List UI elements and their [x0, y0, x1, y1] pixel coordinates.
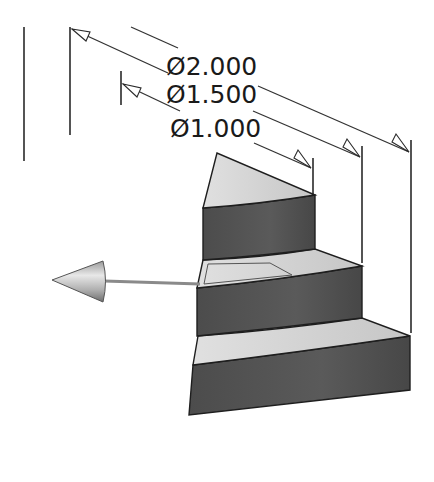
- direction-arrow-shaft[interactable]: [104, 281, 200, 284]
- dimension-labels: Ø2.000 Ø1.500 Ø1.000: [166, 52, 261, 143]
- cad-diagram: Ø2.000 Ø1.500 Ø1.000: [0, 0, 434, 482]
- dimension-label-dia15: Ø1.500: [166, 80, 257, 109]
- arrowhead-dia2-right: [392, 134, 409, 152]
- cone-arrow-icon[interactable]: [52, 261, 106, 302]
- dim-line-dia2-right: [258, 86, 409, 152]
- dimension-label-dia2: Ø2.000: [166, 52, 257, 81]
- extension-lines-left: [24, 27, 121, 161]
- dim-line-dia1-top: [131, 27, 178, 48]
- arrowhead-dia2-left: [72, 29, 90, 41]
- dimension-label-dia1: Ø1.000: [170, 114, 261, 143]
- direction-arrow[interactable]: [52, 261, 200, 302]
- arrowhead-dia1-right: [294, 150, 311, 168]
- arrowhead-dia15-right: [343, 139, 360, 157]
- top-tier: [203, 153, 315, 260]
- arrowhead-dia15-left: [123, 84, 141, 97]
